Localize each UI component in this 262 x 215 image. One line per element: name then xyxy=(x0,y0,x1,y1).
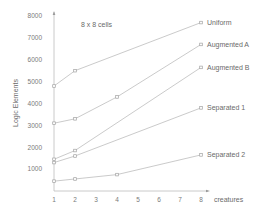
y-tick-label: 1000 xyxy=(28,165,43,172)
x-tick-label: 7 xyxy=(178,196,182,203)
axes xyxy=(53,11,210,192)
y-tick-label: 6000 xyxy=(28,56,43,63)
data-point xyxy=(74,69,77,72)
series-label: Augmented A xyxy=(207,41,249,49)
line-chart: 10002000300040005000600070008000 1234567… xyxy=(0,0,262,215)
series-line xyxy=(54,155,201,181)
data-point xyxy=(116,173,119,176)
series-label: Separated 1 xyxy=(207,104,245,112)
data-point xyxy=(200,107,203,110)
data-point xyxy=(74,155,77,158)
y-tick-label: 4000 xyxy=(28,100,43,107)
series-augmented-b: Augmented B xyxy=(53,64,250,161)
data-point xyxy=(53,85,56,88)
series-augmented-a: Augmented A xyxy=(53,41,250,125)
y-tick-label: 7000 xyxy=(28,34,43,41)
data-point xyxy=(53,122,56,125)
series-group: UniformAugmented AAugmented BSeparated 1… xyxy=(53,19,250,182)
x-axis-label: creatures xyxy=(214,196,244,203)
data-point xyxy=(200,21,203,24)
data-point xyxy=(200,154,203,157)
y-tick-labels: 10002000300040005000600070008000 xyxy=(28,12,43,172)
series-uniform: Uniform xyxy=(53,19,232,87)
data-point xyxy=(200,66,203,69)
x-tick-label: 2 xyxy=(73,196,77,203)
x-tick-label: 8 xyxy=(199,196,203,203)
y-axis-label: Logic Elements xyxy=(12,79,20,127)
y-tick-label: 5000 xyxy=(28,78,43,85)
y-axis-arrow xyxy=(53,11,56,15)
y-tick-label: 8000 xyxy=(28,12,43,19)
data-point xyxy=(74,118,77,121)
series-line xyxy=(54,23,201,86)
x-tick-label: 6 xyxy=(157,196,161,203)
y-tick-label: 3000 xyxy=(28,122,43,129)
data-point xyxy=(53,180,56,183)
data-point xyxy=(53,161,56,164)
data-point xyxy=(74,178,77,181)
x-tick-label: 4 xyxy=(115,196,119,203)
x-tick-label: 3 xyxy=(94,196,98,203)
series-label: Augmented B xyxy=(207,64,250,72)
series-line xyxy=(54,44,201,123)
data-point xyxy=(74,149,77,152)
series-label: Separated 2 xyxy=(207,151,245,159)
x-tick-label: 1 xyxy=(52,196,56,203)
data-point xyxy=(116,96,119,99)
chart-annotation: 8 x 8 cells xyxy=(81,21,113,28)
series-separated-2: Separated 2 xyxy=(53,151,246,182)
series-line xyxy=(54,67,201,159)
data-point xyxy=(53,158,56,161)
series-label: Uniform xyxy=(207,19,232,26)
data-point xyxy=(200,43,203,46)
x-tick-labels: 12345678 xyxy=(52,196,203,203)
y-tick-label: 2000 xyxy=(28,144,43,151)
x-axis-arrow xyxy=(206,190,210,193)
x-tick-label: 5 xyxy=(136,196,140,203)
